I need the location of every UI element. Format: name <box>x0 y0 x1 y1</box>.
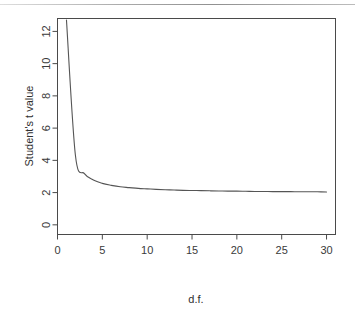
y-axis-tick-label: 4 <box>41 157 53 163</box>
t-value-curve <box>66 20 326 192</box>
x-axis-title: d.f. <box>188 293 203 305</box>
y-axis-tick-label: 0 <box>41 222 53 228</box>
plot-box-border <box>58 19 336 235</box>
x-axis-tick-label-group: 051015202530 <box>54 244 332 256</box>
x-axis-tick-label: 10 <box>141 244 153 256</box>
x-axis-tick-label: 25 <box>276 244 288 256</box>
x-axis-tick-label: 0 <box>54 244 60 256</box>
plot-frame <box>58 19 336 235</box>
y-axis-tick-label-group: 024681012 <box>40 25 52 228</box>
x-axis-tick-label: 30 <box>320 244 332 256</box>
x-axis-tick-label: 5 <box>99 244 105 256</box>
y-axis-tick-group <box>53 31 58 224</box>
y-axis-tick-label: 10 <box>40 58 52 70</box>
y-axis-title: Student's t value <box>23 86 35 167</box>
y-axis-tick-label: 12 <box>41 25 53 37</box>
t-value-vs-df-chart: 024681012 051015202530 d.f. Student's t … <box>0 0 355 320</box>
x-axis-tick-label: 20 <box>231 244 243 256</box>
x-axis-tick-group <box>58 235 327 240</box>
y-axis-tick-label: 8 <box>41 93 53 99</box>
figure-container: 024681012 051015202530 d.f. Student's t … <box>0 0 355 320</box>
y-axis-tick-label: 6 <box>41 125 53 131</box>
y-axis-tick-label: 2 <box>41 190 53 196</box>
x-axis-tick-label: 15 <box>186 244 198 256</box>
